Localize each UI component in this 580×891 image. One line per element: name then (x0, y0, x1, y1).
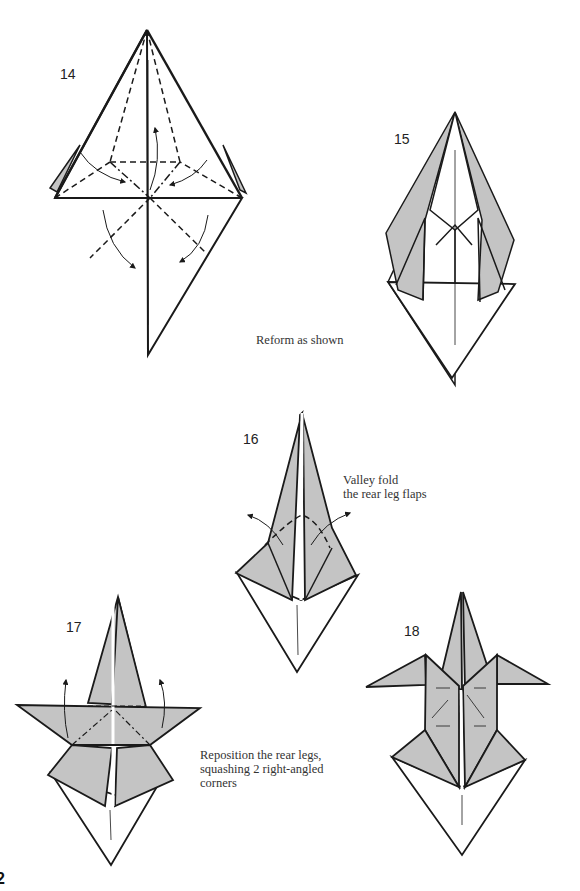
step-15-number: 15 (394, 131, 410, 147)
step-18-diagram (366, 592, 548, 855)
step-16-caption-line-2: the rear leg flaps (343, 487, 427, 501)
step-15-caption: Reform as shown (256, 333, 344, 347)
step-16-caption-line-1: Valley fold (343, 473, 427, 487)
step-14-diagram (50, 30, 246, 355)
step-15-diagram (386, 112, 515, 385)
step-14-number: 14 (60, 66, 76, 82)
step-18-number: 18 (404, 623, 420, 639)
step-16-number: 16 (243, 431, 259, 447)
step-17-caption-line-3: corners (200, 776, 324, 790)
step-17-caption-line-1: Reposition the rear legs, (200, 748, 324, 762)
step-16-diagram (236, 413, 358, 672)
step-16-caption: Valley fold the rear leg flaps (343, 473, 427, 501)
step-17-caption-line-2: squashing 2 right-angled (200, 762, 324, 776)
page-number: 2 (0, 870, 5, 888)
step-17-caption: Reposition the rear legs, squashing 2 ri… (200, 748, 324, 790)
step-17-diagram (17, 597, 200, 865)
step-17-number: 17 (66, 619, 82, 635)
